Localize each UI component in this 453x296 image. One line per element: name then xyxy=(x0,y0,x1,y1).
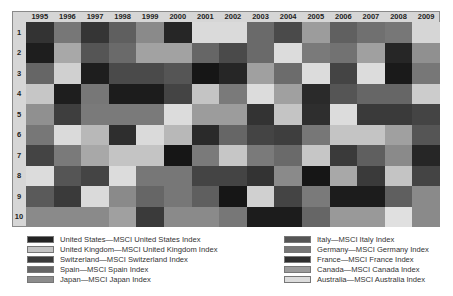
rank-labels: 12345678910 xyxy=(12,22,26,227)
heatmap-cell xyxy=(54,145,82,166)
rank-label: 6 xyxy=(12,125,26,146)
legend-label: Spain—MSCI Spain Index xyxy=(60,265,148,274)
legend-item: United States—MSCI United States Index xyxy=(27,234,217,244)
heatmap-cell xyxy=(330,166,358,187)
heatmap-cell xyxy=(385,207,413,228)
heatmap-cell xyxy=(412,43,440,64)
heatmap-cell xyxy=(219,84,247,105)
legend-right: Italy—MSCI Italy IndexGermany—MSCI Germa… xyxy=(284,234,429,284)
heatmap-cell xyxy=(81,207,109,228)
heatmap-cell xyxy=(219,43,247,64)
heatmap-cell xyxy=(247,186,275,207)
rank-label: 9 xyxy=(12,186,26,207)
heatmap-cell xyxy=(385,63,413,84)
year-label: 2006 xyxy=(330,11,358,22)
legend-item: Italy—MSCI Italy Index xyxy=(284,234,429,244)
legend-swatch xyxy=(27,256,54,263)
heatmap-grid xyxy=(26,22,440,227)
year-header: 1995199619971998199920002001200220032004… xyxy=(26,11,440,22)
heatmap-cell xyxy=(109,63,137,84)
heatmap-cell xyxy=(54,125,82,146)
heatmap-cell xyxy=(136,207,164,228)
heatmap-cell xyxy=(385,125,413,146)
rank-label: 4 xyxy=(12,84,26,105)
heatmap-cell xyxy=(357,186,385,207)
heatmap-cell xyxy=(136,145,164,166)
legend-item: Japan—MSCI Japan Index xyxy=(27,274,217,284)
heatmap-cell xyxy=(330,125,358,146)
heatmap-cell xyxy=(192,166,220,187)
year-label: 1995 xyxy=(26,11,54,22)
heatmap-cell xyxy=(247,43,275,64)
year-label: 2005 xyxy=(302,11,330,22)
legend-label: Italy—MSCI Italy Index xyxy=(317,235,394,244)
heatmap-cell xyxy=(247,84,275,105)
heatmap-cell xyxy=(302,84,330,105)
heatmap-cell xyxy=(247,104,275,125)
heatmap-cell xyxy=(192,145,220,166)
heatmap-cell xyxy=(192,125,220,146)
heatmap-cell xyxy=(136,63,164,84)
legend-label: Germany—MSCI Germany Index xyxy=(317,245,429,254)
heatmap-cell xyxy=(164,145,192,166)
heatmap-cell xyxy=(109,104,137,125)
heatmap-cell xyxy=(109,43,137,64)
heatmap-cell xyxy=(81,145,109,166)
legend-label: Australia—MSCI Australia Index xyxy=(317,275,425,284)
year-label: 1996 xyxy=(54,11,82,22)
heatmap-cell xyxy=(81,186,109,207)
rank-label: 10 xyxy=(12,207,26,228)
heatmap-cell xyxy=(219,63,247,84)
rank-label: 1 xyxy=(12,22,26,43)
heatmap-cell xyxy=(109,84,137,105)
heatmap-cell xyxy=(412,63,440,84)
heatmap-cell xyxy=(330,145,358,166)
heatmap-cell xyxy=(164,84,192,105)
legend-item: Spain—MSCI Spain Index xyxy=(27,264,217,274)
heatmap-cell xyxy=(412,207,440,228)
legend-swatch xyxy=(284,276,311,283)
heatmap-cell xyxy=(26,125,54,146)
legend-swatch xyxy=(27,236,54,243)
heatmap-cell xyxy=(357,145,385,166)
heatmap-cell xyxy=(164,166,192,187)
heatmap-cell xyxy=(26,63,54,84)
heatmap-cell xyxy=(164,186,192,207)
heatmap-cell xyxy=(192,84,220,105)
heatmap-cell xyxy=(54,43,82,64)
heatmap-cell xyxy=(136,84,164,105)
heatmap-cell xyxy=(302,22,330,43)
heatmap-cell xyxy=(136,43,164,64)
heatmap-cell xyxy=(302,166,330,187)
heatmap-cell xyxy=(26,186,54,207)
heatmap-cell xyxy=(330,207,358,228)
heatmap-cell xyxy=(54,63,82,84)
heatmap-cell xyxy=(302,186,330,207)
heatmap-cell xyxy=(274,207,302,228)
heatmap-cell xyxy=(219,22,247,43)
heatmap-cell xyxy=(81,84,109,105)
heatmap-cell xyxy=(109,166,137,187)
legend-label: France—MSCI France Index xyxy=(317,255,414,264)
legend-item: United Kingdom—MSCI United Kingdom Index xyxy=(27,244,217,254)
heatmap-cell xyxy=(357,22,385,43)
heatmap-cell xyxy=(164,125,192,146)
heatmap-cell xyxy=(412,166,440,187)
year-label: 1999 xyxy=(136,11,164,22)
heatmap-cell xyxy=(330,84,358,105)
heatmap-cell xyxy=(192,22,220,43)
legend-swatch xyxy=(27,246,54,253)
heatmap-cell xyxy=(302,104,330,125)
heatmap-cell xyxy=(274,125,302,146)
heatmap-cell xyxy=(330,104,358,125)
heatmap-cell xyxy=(302,63,330,84)
heatmap-cell xyxy=(412,22,440,43)
heatmap-cell xyxy=(247,166,275,187)
heatmap-cell xyxy=(274,145,302,166)
heatmap-cell xyxy=(109,22,137,43)
heatmap-cell xyxy=(385,145,413,166)
year-label: 2000 xyxy=(164,11,192,22)
heatmap-cell xyxy=(136,166,164,187)
heatmap-cell xyxy=(26,84,54,105)
year-label: 1998 xyxy=(109,11,137,22)
